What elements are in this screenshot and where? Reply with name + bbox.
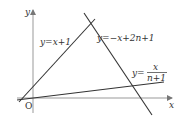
coordinate-diagram: y x O y=x+1 y=−x+2n+1 y= x n+1 [0,0,182,121]
label-line1: y=x+1 [39,37,71,47]
line-y-eq-x-over-n-plus-1 [17,82,164,100]
fraction-denominator: n+1 [147,73,166,83]
origin-label: O [25,101,32,111]
x-axis-label: x [169,100,174,110]
line-y-eq-x-plus-1 [19,19,95,102]
svg-text:y=: y= [131,68,145,78]
label-line2: y=−x+2n+1 [96,33,155,43]
fraction-numerator: x [153,62,158,72]
y-axis-label: y [24,7,31,17]
line-y-eq-neg-x-plus-2n-plus-1 [84,13,152,115]
label-line3: y= x n+1 [131,62,167,83]
